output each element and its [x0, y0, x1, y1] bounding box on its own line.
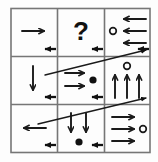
cell-r2c2-arrows-right — [65, 73, 84, 86]
edge-marker-arrows — [45, 49, 149, 145]
cell-r2c3-arrows-up — [115, 75, 139, 98]
diagonal-arrow-upper — [45, 50, 146, 75]
cell-r1c3-arrows-left — [124, 19, 146, 43]
matrix-diagram: ? — [0, 0, 158, 162]
matrix-puzzle-figure: ? — [0, 0, 158, 162]
cell-r3c2-filled-dot — [75, 138, 82, 145]
cell-r3c3-open-circle — [140, 126, 147, 133]
cell-r1c3-open-circle — [110, 28, 117, 35]
diagonal-arrow-lower — [38, 98, 146, 124]
missing-cell-question-mark: ? — [73, 16, 89, 46]
cell-r2c2-filled-dot — [89, 76, 96, 83]
cell-r3c3-arrows-right — [112, 117, 134, 141]
cell-r2c3-open-circle — [124, 63, 131, 70]
diagonal-arrows — [38, 50, 146, 124]
